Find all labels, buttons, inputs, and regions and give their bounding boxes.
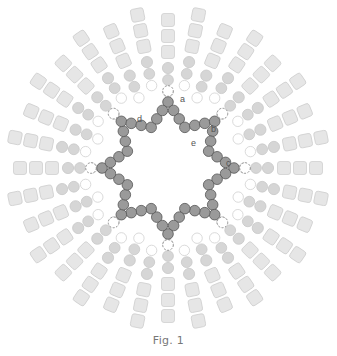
cube-bead [228, 262, 246, 280]
ring-bead [118, 199, 129, 210]
cube-bead [136, 39, 151, 54]
white-bead [179, 80, 189, 90]
apex-bead [86, 163, 97, 174]
cube-bead [296, 216, 313, 233]
ring-bead [157, 105, 168, 116]
gray-bead [233, 92, 244, 103]
gray-bead [68, 144, 79, 155]
cube-bead [133, 23, 148, 38]
cube-bead [310, 162, 323, 175]
ring-bead [126, 207, 137, 218]
white-bead [146, 80, 156, 90]
cube-bead [246, 289, 264, 307]
white-bead [93, 209, 103, 219]
cube-bead [81, 43, 99, 61]
cube-bead [210, 38, 227, 55]
ring-bead [136, 205, 147, 216]
cube-bead [313, 130, 328, 145]
cube-bead [7, 130, 22, 145]
apex-bead [108, 217, 119, 228]
cube-bead [162, 46, 175, 59]
gray-bead [201, 255, 212, 266]
cube-bead [39, 185, 54, 200]
cube-bead [109, 38, 126, 55]
cube-bead [246, 29, 264, 47]
apex-bead [217, 217, 228, 228]
gray-bead [233, 233, 244, 244]
cube-bead [103, 23, 120, 40]
gray-bead [81, 129, 92, 140]
cube-bead [275, 81, 293, 99]
white-bead [233, 192, 243, 202]
cube-bead [185, 282, 200, 297]
cube-bead [162, 294, 175, 307]
apex-bead [163, 240, 174, 251]
cube-bead [237, 275, 255, 293]
white-bead [80, 179, 90, 189]
gray-bead [255, 201, 266, 212]
gray-bead [244, 129, 255, 140]
cube-bead [133, 298, 148, 313]
gray-bead [196, 81, 207, 92]
white-bead [233, 209, 243, 219]
gray-bead [141, 268, 152, 279]
cube-bead [38, 210, 55, 227]
white-bead [93, 134, 103, 144]
cube-bead [237, 43, 255, 61]
white-bead [134, 93, 144, 103]
cube-bead [216, 296, 233, 313]
cube-bead [109, 281, 126, 298]
gray-bead [262, 162, 273, 173]
gray-bead [183, 56, 194, 67]
cube-bead [90, 262, 108, 280]
cube-bead [23, 103, 40, 120]
white-bead [116, 93, 126, 103]
white-bead [179, 245, 189, 255]
gray-bead [73, 222, 84, 233]
cube-bead [136, 282, 151, 297]
cube-bead [56, 90, 74, 108]
cube-bead [281, 210, 298, 227]
ring-bead [189, 205, 200, 216]
cube-bead [115, 267, 132, 284]
gray-bead [81, 196, 92, 207]
cube-bead [77, 241, 95, 259]
gray-bead [129, 244, 140, 255]
ring-bead [205, 189, 216, 200]
ring-bead [203, 180, 214, 191]
gray-bead [181, 257, 192, 268]
gray-bead [216, 83, 227, 94]
cube-bead [43, 81, 61, 99]
gray-bead [252, 222, 263, 233]
cube-bead [14, 162, 27, 175]
cube-bead [298, 133, 313, 148]
cube-bead [210, 281, 227, 298]
ring-bead [199, 207, 210, 218]
gray-bead [268, 183, 279, 194]
cube-bead [262, 228, 280, 246]
cube-bead [30, 162, 43, 175]
cube-bead [81, 275, 99, 293]
cube-bead [23, 188, 38, 203]
cube-bead [162, 14, 175, 27]
cube-bead [289, 246, 307, 264]
cube-bead [241, 77, 259, 95]
ring-bead [120, 189, 131, 200]
ring-bead [180, 122, 191, 133]
cube-bead [29, 246, 47, 264]
gray-bead [124, 70, 135, 81]
white-bead [233, 116, 243, 126]
white-bead [233, 134, 243, 144]
gray-bead [222, 252, 233, 263]
white-bead [134, 233, 144, 243]
cube-bead [191, 313, 206, 328]
cube-bead [72, 29, 90, 47]
gray-bead [124, 255, 135, 266]
cube-bead [289, 72, 307, 90]
gray-bead [163, 75, 174, 86]
radial-spokes [7, 7, 328, 328]
gray-bead [162, 262, 173, 273]
gray-bead [62, 162, 73, 173]
gray-bead [73, 102, 84, 113]
cube-bead [204, 52, 221, 69]
